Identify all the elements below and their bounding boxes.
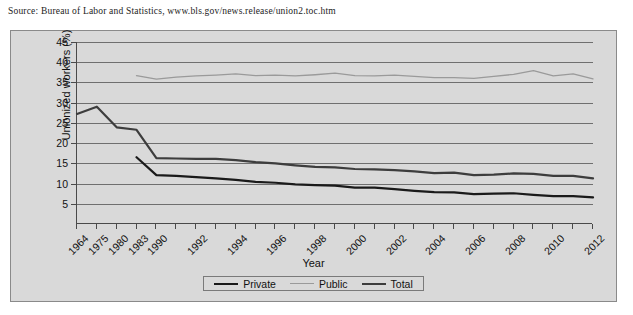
source-note: Source: Bureau of Labor and Statistics, … [8,6,336,16]
x-tick-mark-23 [532,224,533,229]
legend-swatch-private [214,283,238,285]
x-axis-label: Year [11,257,616,269]
x-tick-mark-26 [592,224,593,229]
x-tick-mark-4 [155,224,156,229]
series-line-public [137,71,593,79]
legend-item-public[interactable]: Public [290,278,348,290]
y-tick-mark-45 [71,42,76,43]
x-tick-mark-18 [433,224,434,229]
x-tick-mark-11 [294,224,295,229]
y-tick-label-25: 25 [40,117,68,129]
y-tick-mark-35 [71,82,76,83]
y-tick-mark-15 [71,163,76,164]
x-tick-mark-8 [235,224,236,229]
x-tick-mark-16 [394,224,395,229]
x-tick-mark-9 [255,224,256,229]
chart-page: Source: Bureau of Labor and Statistics, … [0,0,633,315]
y-tick-label-45: 45 [40,36,68,48]
x-tick-mark-22 [513,224,514,229]
x-tick-mark-25 [572,224,573,229]
y-tick-mark-25 [71,123,76,124]
y-tick-label-30: 30 [40,97,68,109]
y-tick-mark-5 [71,204,76,205]
series-line-private [137,157,593,197]
y-tick-label-35: 35 [40,76,68,88]
x-tick-mark-12 [314,224,315,229]
legend-box: Private Public Total [203,276,423,291]
legend-label-total: Total [391,278,413,290]
series-line-total [77,107,593,179]
x-tick-mark-21 [493,224,494,229]
x-tick-mark-7 [215,224,216,229]
y-tick-label-10: 10 [40,178,68,190]
x-tick-mark-13 [334,224,335,229]
y-tick-label-5: 5 [40,198,68,210]
legend-swatch-public [290,283,314,284]
x-tick-mark-24 [552,224,553,229]
series-lines [77,42,593,224]
x-tick-mark-14 [354,224,355,229]
y-tick-mark-30 [71,103,76,104]
y-tick-label-20: 20 [40,137,68,149]
y-tick-mark-40 [71,62,76,63]
y-tick-label-40: 40 [40,56,68,68]
legend-item-total[interactable]: Total [362,278,413,290]
x-tick-mark-17 [413,224,414,229]
legend-swatch-total [362,283,386,285]
x-tick-mark-3 [136,224,137,229]
chart-frame: Unionized workers (%) 51015202530354045 … [10,30,617,302]
y-tick-mark-20 [71,143,76,144]
x-tick-mark-1 [96,224,97,229]
legend-item-private[interactable]: Private [214,278,276,290]
x-tick-mark-2 [116,224,117,229]
y-tick-mark-10 [71,184,76,185]
x-tick-mark-15 [374,224,375,229]
legend-label-public: Public [319,278,348,290]
plot-area [76,42,592,224]
y-tick-label-15: 15 [40,157,68,169]
x-tick-mark-19 [453,224,454,229]
x-tick-mark-20 [473,224,474,229]
x-tick-mark-0 [76,224,77,229]
legend-label-private: Private [243,278,276,290]
x-tick-mark-6 [195,224,196,229]
x-tick-mark-5 [175,224,176,229]
plot-wrapper: Unionized workers (%) 51015202530354045 … [11,31,616,301]
legend: Private Public Total [11,276,616,291]
x-tick-mark-10 [274,224,275,229]
